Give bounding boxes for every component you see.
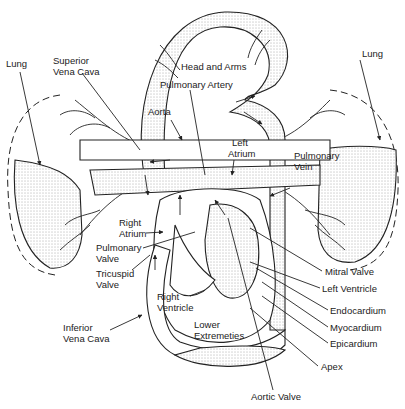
- label-inferior-vena-cava-1: Inferior: [63, 322, 93, 333]
- circulatory-diagram: Lung Lung Superior Vena Cava Head and Ar…: [0, 0, 405, 409]
- label-inferior-vena-cava-2: Vena Cava: [63, 333, 109, 344]
- label-tricuspid-valve-2: Valve: [96, 279, 119, 290]
- label-aorta: Aorta: [148, 106, 171, 117]
- label-aortic-valve: Aortic Valve: [251, 391, 301, 402]
- label-pulmonary-vein-2: Vein: [294, 161, 313, 172]
- label-endocardium: Endocardium: [330, 305, 386, 316]
- label-right-atrium-2: Atrium: [119, 228, 146, 239]
- label-mitral-valve: Mitral Valve: [325, 266, 374, 277]
- label-left-atrium-1: Left: [232, 137, 248, 148]
- label-right-atrium-1: Right: [119, 217, 141, 228]
- label-myocardium: Myocardium: [330, 322, 382, 333]
- label-apex: Apex: [321, 361, 343, 372]
- label-head-and-arms: Head and Arms: [181, 61, 246, 72]
- label-pulmonary-valve-1: Pulmonary: [96, 242, 141, 253]
- label-pulmonary-artery: Pulmonary Artery: [160, 79, 233, 90]
- label-right-ventricle-2: Ventricle: [157, 302, 193, 313]
- label-left-atrium-2: Atrium: [228, 148, 255, 159]
- label-lower-extremeties-2: Extremeties: [194, 330, 244, 341]
- label-lung-left: Lung: [6, 58, 27, 69]
- label-superior-vena-cava-1: Superior: [53, 55, 89, 66]
- label-pulmonary-valve-2: Valve: [96, 253, 119, 264]
- pulmonary-vessels: [80, 140, 330, 195]
- label-lung-right: Lung: [362, 48, 383, 59]
- label-pulmonary-vein-1: Pulmonary: [294, 150, 339, 161]
- label-left-ventricle: Left Ventricle: [322, 283, 377, 294]
- label-epicardium: Epicardium: [330, 338, 378, 349]
- label-right-ventricle-1: Right: [157, 291, 179, 302]
- label-superior-vena-cava-2: Vena Cava: [53, 66, 99, 77]
- label-tricuspid-valve-1: Tricuspid: [96, 268, 134, 279]
- label-lower-extremeties-1: Lower: [194, 319, 220, 330]
